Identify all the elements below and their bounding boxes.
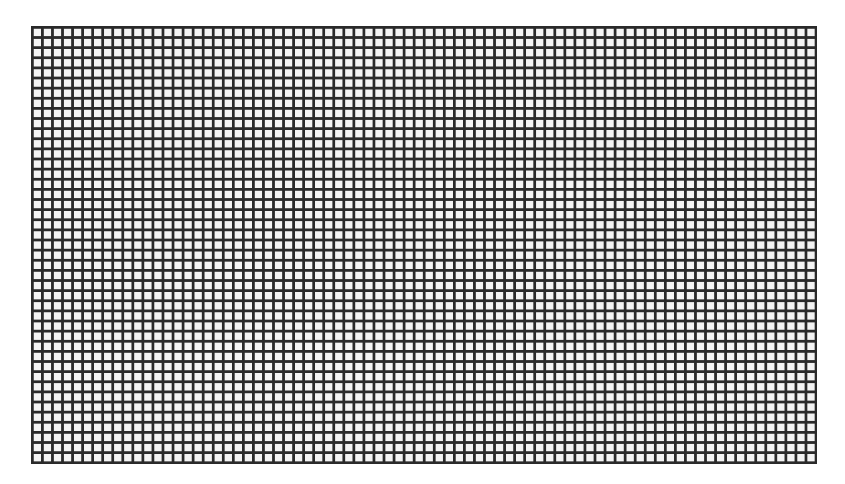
grid-pattern: Uniform square grid / mesh pattern — [31, 26, 817, 464]
grid-description: Uniform square grid / mesh pattern — [31, 26, 32, 27]
canvas: Uniform square grid / mesh pattern — [0, 0, 845, 484]
